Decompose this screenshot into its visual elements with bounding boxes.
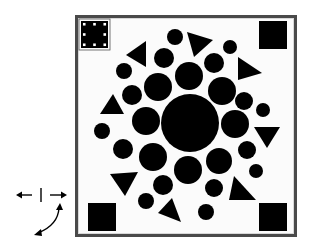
circle-shape (221, 110, 249, 138)
rotate-arrow-icon (34, 203, 63, 236)
transform-legend (16, 188, 67, 236)
triangle-shape (110, 172, 138, 196)
marker-dot (103, 23, 106, 26)
marker-dot (103, 43, 106, 46)
corner-square-top-right (259, 21, 287, 49)
circle-shape (144, 73, 172, 101)
circle-shape (198, 204, 214, 220)
circle-shape (175, 62, 203, 90)
triangle-shape (187, 32, 213, 57)
marker-dot (83, 23, 86, 26)
circle-shape (223, 40, 237, 54)
triangle-shape (126, 41, 146, 67)
circle-shape (256, 103, 270, 117)
circle-shape (208, 77, 236, 105)
circle-shape (113, 139, 133, 159)
circle-shape (167, 29, 183, 45)
circle-shape (204, 53, 224, 73)
circle-shape (138, 193, 154, 209)
corner-square-bottom-left (88, 203, 116, 231)
marker-dot (93, 43, 96, 46)
circle-shape (132, 107, 160, 135)
circle-shape (154, 48, 174, 68)
circle-shape (206, 148, 232, 174)
circle-shape (174, 156, 202, 184)
marker-dot (103, 33, 106, 36)
circle-shape (238, 141, 256, 159)
triangle-shape (229, 176, 256, 200)
triangle-shape (100, 94, 124, 114)
marker-dot (83, 33, 86, 36)
circle-shape (116, 63, 132, 79)
marker-dot (93, 23, 96, 26)
circle-shape (94, 123, 110, 139)
circle-shape (153, 175, 173, 195)
circle-shape (235, 92, 253, 110)
circle-shape (122, 85, 142, 105)
triangle-shape (158, 198, 181, 222)
shape-canvas (0, 0, 309, 250)
marker-dot (83, 43, 86, 46)
triangle-shape (254, 127, 280, 148)
circle-shape (205, 179, 223, 197)
corner-square-bottom-right (259, 203, 287, 231)
flip-arrow-icon (16, 188, 67, 202)
circle-shape (161, 94, 219, 152)
triangle-shape (238, 57, 262, 80)
puzzle-figure (0, 0, 309, 250)
circle-shape (249, 164, 263, 178)
circle-shape (139, 143, 167, 171)
